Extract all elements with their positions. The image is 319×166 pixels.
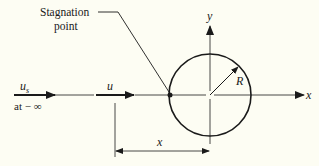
stagnation-flow-diagram: x us at − ∞ u y R Stagnation point x: [0, 0, 319, 166]
distance-label: x: [156, 135, 163, 149]
stagnation-label-line1: Stagnation: [40, 6, 89, 19]
radius-label: R: [235, 74, 244, 88]
radius-arrow: [210, 67, 238, 95]
free-stream-velocity-label: us: [20, 79, 29, 95]
free-stream-location-label: at − ∞: [14, 100, 42, 112]
local-velocity-label: u: [107, 79, 113, 93]
x-axis-label: x: [305, 88, 312, 102]
stagnation-point-dot: [168, 93, 173, 98]
stagnation-label-line2: point: [54, 20, 78, 33]
y-axis-label: y: [206, 9, 213, 23]
